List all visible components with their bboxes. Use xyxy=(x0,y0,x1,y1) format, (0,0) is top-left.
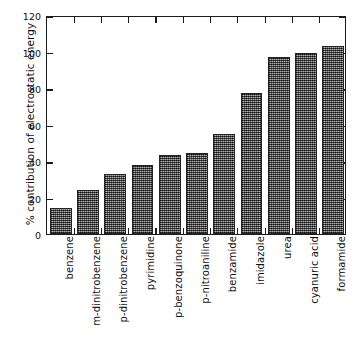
y-tick-label-text: 80 xyxy=(29,84,41,95)
x-tick-label: p-dinitrobenzene xyxy=(118,236,129,322)
bar xyxy=(322,46,344,234)
x-tick-label: formamide xyxy=(336,236,347,291)
x-tick-label: cyanuric acid xyxy=(309,236,320,304)
bar xyxy=(50,208,72,234)
bar xyxy=(132,165,154,234)
bar xyxy=(159,155,181,234)
x-tick-label: benzamide xyxy=(227,236,238,292)
x-axis-tick-labels: benzenem-dinitrobenzenep-dinitrobenzenep… xyxy=(46,236,346,356)
bar xyxy=(77,190,99,234)
x-tick-label: imidazole xyxy=(255,236,266,285)
chart-figure: % contribution of electrostatic energy 0… xyxy=(0,0,353,358)
bar xyxy=(268,57,290,234)
x-tick-label: pyrimidine xyxy=(145,236,156,290)
y-tick-label-text: 100 xyxy=(23,47,41,58)
y-tick-label-text: 40 xyxy=(29,157,41,168)
y-tick-label-text: 20 xyxy=(29,193,41,204)
bar xyxy=(241,93,263,234)
y-tick-label-text: 120 xyxy=(23,11,41,22)
y-tick-label-text: 0 xyxy=(35,230,41,241)
x-tick-label: p-nitroaniline xyxy=(200,236,211,304)
x-tick-label: m-dinitrobenzene xyxy=(91,236,102,326)
x-tick-label: urea xyxy=(282,236,293,259)
plot-area xyxy=(46,16,346,235)
x-tick-label: p-benzoquinone xyxy=(173,236,184,318)
bar xyxy=(104,174,126,234)
x-tick-label: benzene xyxy=(64,236,75,279)
bar xyxy=(213,134,235,234)
y-tick-label-text: 60 xyxy=(29,120,41,131)
bar xyxy=(295,53,317,234)
bar-series xyxy=(47,17,345,234)
bar xyxy=(186,153,208,234)
